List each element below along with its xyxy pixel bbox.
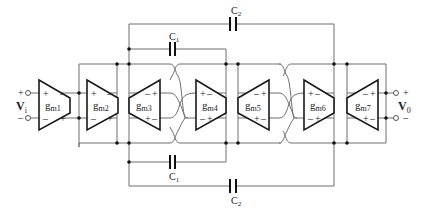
svg-text:+: + — [254, 113, 260, 124]
svg-text:–: – — [206, 88, 213, 99]
transconductor-gm1: + – – + gm1 — [39, 80, 70, 130]
svg-text:+: + — [363, 113, 369, 124]
svg-text:+: + — [91, 88, 97, 99]
c2-top-label: C2 — [231, 5, 242, 18]
output-port: + – V0 — [394, 87, 411, 123]
input-plus-terminal — [26, 91, 31, 96]
transconductor-gm7: – + + – gm7 — [347, 80, 378, 130]
svg-text:–: – — [90, 113, 97, 124]
svg-text:+: + — [308, 88, 314, 99]
transconductor-gm3: – + + – gm3 — [129, 80, 160, 130]
capacitor-c2-bottom: C2 — [230, 179, 242, 208]
svg-text:+: + — [403, 87, 409, 98]
output-minus-terminal — [394, 116, 399, 121]
transconductor-gm5: – + + – gm5 — [238, 80, 269, 130]
capacitor-c1-top: C1 — [169, 31, 180, 56]
svg-text:+: + — [152, 88, 158, 99]
input-port: + – Vi — [16, 87, 31, 123]
svg-text:–: – — [260, 113, 267, 124]
svg-text:+: + — [370, 88, 376, 99]
svg-text:+: + — [145, 113, 151, 124]
svg-text:+: + — [200, 88, 206, 99]
svg-text:–: – — [253, 88, 260, 99]
input-voltage-label: Vi — [16, 99, 28, 115]
capacitor-c1-bottom: C1 — [169, 155, 180, 184]
svg-text:–: – — [17, 112, 24, 123]
c2-bottom-label: C2 — [231, 195, 242, 208]
svg-text:+: + — [315, 113, 321, 124]
input-minus-terminal — [26, 116, 31, 121]
svg-text:–: – — [144, 88, 151, 99]
svg-text:–: – — [362, 88, 369, 99]
svg-text:+: + — [107, 113, 113, 124]
svg-text:–: – — [42, 113, 49, 124]
svg-text:+: + — [261, 88, 267, 99]
output-voltage-label: V0 — [398, 99, 411, 115]
output-plus-terminal — [394, 91, 399, 96]
svg-text:–: – — [199, 113, 206, 124]
svg-text:–: – — [59, 88, 66, 99]
svg-text:–: – — [106, 88, 113, 99]
svg-text:–: – — [307, 113, 314, 124]
transconductor-gm6: + – – + gm6 — [304, 80, 334, 130]
capacitor-c2-top: C2 — [230, 5, 242, 31]
svg-text:–: – — [314, 88, 321, 99]
junction-dots — [77, 47, 388, 164]
svg-text:+: + — [43, 88, 49, 99]
svg-text:–: – — [369, 113, 376, 124]
svg-text:–: – — [151, 113, 158, 124]
circuit-diagram: C1 C2 C1 C2 + – – + gm1 + – – + gm2 – + … — [0, 0, 423, 217]
transconductor-gm2: + – – + gm2 — [87, 80, 118, 130]
transconductor-gm4: + – – + gm4 — [196, 80, 226, 130]
svg-text:+: + — [207, 113, 213, 124]
svg-text:+: + — [60, 113, 66, 124]
c1-bottom-label: C1 — [169, 171, 180, 184]
svg-text:+: + — [18, 87, 24, 98]
